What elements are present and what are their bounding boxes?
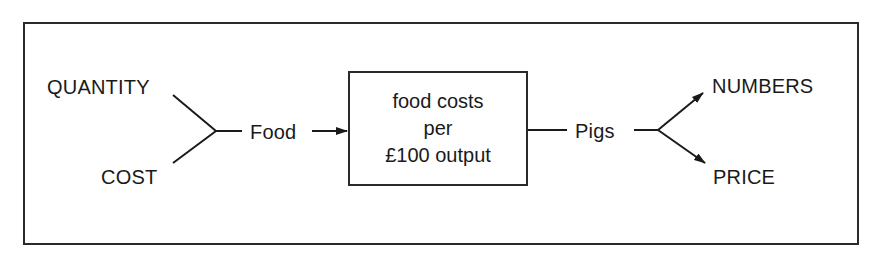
output-label-price: PRICE <box>713 166 775 188</box>
pigs-label: Pigs <box>575 120 615 142</box>
food-label: Food <box>250 121 296 143</box>
process-line-1: food costs <box>392 88 483 115</box>
quantity-connector <box>173 95 216 131</box>
numbers-arrow <box>658 93 703 130</box>
input-label-cost: COST <box>101 166 157 188</box>
cost-connector <box>173 131 216 163</box>
process-line-2: per <box>424 115 453 142</box>
process-line-3: £100 output <box>385 142 491 169</box>
price-arrow <box>658 130 705 163</box>
output-label-numbers: NUMBERS <box>712 75 813 97</box>
input-label-quantity: QUANTITY <box>47 76 150 98</box>
process-box: food costs per £100 output <box>348 71 528 186</box>
